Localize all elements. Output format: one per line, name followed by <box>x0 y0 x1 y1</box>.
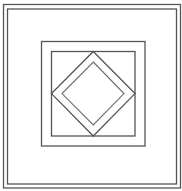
quilt-block-drawing <box>0 0 182 191</box>
background <box>0 0 182 191</box>
